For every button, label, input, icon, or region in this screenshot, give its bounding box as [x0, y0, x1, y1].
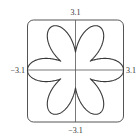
y-max-label: 3.1 — [71, 8, 81, 17]
polar-plot: 3.1 −3.1 −3.1 3.1 — [0, 0, 140, 139]
x-max-label: 3.1 — [126, 66, 136, 75]
y-min-label: −3.1 — [68, 126, 83, 135]
x-min-label: −3.1 — [10, 66, 25, 75]
